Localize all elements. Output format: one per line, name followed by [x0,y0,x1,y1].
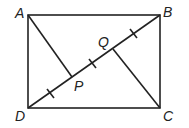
label-a: A [14,5,24,21]
label-c: C [163,108,174,124]
segment-ap [28,15,72,77]
label-b: B [163,4,172,20]
label-d: D [15,108,25,124]
label-p: P [74,78,84,94]
label-q: Q [98,34,109,50]
geometry-diagram: A B C D P Q [0,0,189,128]
segment-cq [113,49,160,108]
diagonal-db [28,15,160,108]
tick-mark-qb [130,29,137,38]
